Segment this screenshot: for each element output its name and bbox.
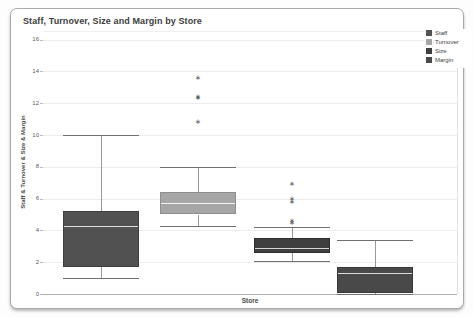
legend-label: Margin (435, 57, 453, 63)
box-staff[interactable] (63, 211, 139, 267)
y-tick-mark (40, 135, 43, 136)
legend-label: Staff (435, 30, 447, 36)
box-size[interactable] (254, 238, 330, 252)
median-line (255, 248, 329, 249)
outlier-marker: ∗ (194, 95, 202, 99)
legend-swatch-icon (426, 30, 432, 36)
upper-whisker (375, 240, 376, 267)
x-axis-title: Store (43, 297, 457, 304)
y-tick-mark (40, 262, 43, 263)
legend-item-size[interactable]: Size (426, 48, 472, 54)
upper-whisker (101, 135, 102, 211)
y-tick-label: 14 (13, 68, 39, 74)
outlier-marker: ∗ (194, 76, 202, 80)
y-tick-label: 2 (13, 259, 39, 265)
outlier-marker: ∗ (288, 197, 296, 201)
max-cap (63, 135, 139, 136)
chart-card: Staff, Turnover, Size and Margin by Stor… (10, 8, 464, 309)
outlier-marker: ∗ (288, 219, 296, 223)
y-tick-mark (40, 199, 43, 200)
legend-label: Size (435, 48, 447, 54)
min-cap (337, 294, 413, 295)
y-tick-mark (40, 230, 43, 231)
min-cap (160, 226, 236, 227)
upper-whisker (198, 167, 199, 192)
gridline (43, 199, 457, 200)
legend: StaffTurnoverSizeMargin (424, 29, 472, 68)
median-line (161, 203, 235, 204)
upper-whisker (292, 227, 293, 238)
y-tick-label: 12 (13, 100, 39, 106)
y-tick-mark (40, 167, 43, 168)
outlier-marker: ∗ (194, 120, 202, 124)
legend-swatch-icon (426, 57, 432, 63)
legend-item-staff[interactable]: Staff (426, 30, 472, 36)
legend-swatch-icon (426, 39, 432, 45)
chart-title: Staff, Turnover, Size and Margin by Stor… (23, 16, 202, 26)
y-axis-title: Staff & Turnover & Size & Margin (20, 102, 26, 222)
legend-label: Turnover (435, 39, 459, 45)
lower-whisker (292, 253, 293, 261)
gridline (43, 40, 457, 41)
gridline (43, 167, 457, 168)
legend-swatch-icon (426, 48, 432, 54)
box-margin[interactable] (337, 267, 413, 293)
lower-whisker (101, 267, 102, 278)
min-cap (63, 278, 139, 279)
y-tick-label: 6 (13, 195, 39, 201)
lower-whisker (198, 215, 199, 226)
y-tick-label: 16 (13, 36, 39, 42)
legend-item-turnover[interactable]: Turnover (426, 39, 472, 45)
outlier-marker: ∗ (288, 182, 296, 186)
y-tick-label: 0 (13, 291, 39, 297)
plot-area: 1614121086420∗∗∗∗∗∗∗∗∗ (43, 31, 458, 294)
y-tick-mark (40, 294, 43, 295)
max-cap (337, 240, 413, 241)
y-tick-label: 8 (13, 163, 39, 169)
y-tick-mark (40, 71, 43, 72)
y-tick-label: 10 (13, 132, 39, 138)
y-tick-label: 4 (13, 227, 39, 233)
y-tick-mark (40, 40, 43, 41)
y-tick-mark (40, 103, 43, 104)
gridline (43, 103, 457, 104)
median-line (338, 273, 412, 274)
max-cap (160, 167, 236, 168)
min-cap (254, 261, 330, 262)
legend-item-margin[interactable]: Margin (426, 57, 472, 63)
gridline (43, 71, 457, 72)
median-line (64, 226, 138, 227)
max-cap (254, 227, 330, 228)
